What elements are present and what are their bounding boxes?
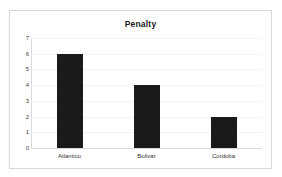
y-tick-label: 1: [13, 129, 29, 135]
x-tick-label: Bolivar: [137, 153, 155, 159]
bar-slot: [185, 38, 262, 148]
chart-container: Penalty 76543210 AtlanticoBolivarCordoba: [9, 10, 272, 169]
bar-slot: [31, 38, 108, 148]
bar[interactable]: [211, 117, 237, 148]
y-tick-label: 6: [13, 51, 29, 57]
plot-area: [31, 38, 262, 148]
y-axis-tick-labels: 76543210: [10, 38, 29, 148]
y-tick-label: 5: [13, 66, 29, 72]
y-tick-label: 4: [13, 82, 29, 88]
x-axis-baseline: [31, 148, 262, 149]
y-tick-label: 3: [13, 98, 29, 104]
bar[interactable]: [134, 85, 160, 148]
bar-slot: [108, 38, 185, 148]
chart-title: Penalty: [10, 19, 271, 29]
x-tick-label: Atlantico: [58, 153, 81, 159]
x-tick-label: Cordoba: [212, 153, 235, 159]
bar[interactable]: [57, 54, 83, 148]
y-tick-label: 0: [13, 145, 29, 151]
y-tick-label: 7: [13, 35, 29, 41]
y-tick-label: 2: [13, 114, 29, 120]
